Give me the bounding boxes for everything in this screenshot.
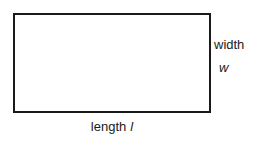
length-label-group: lengthl xyxy=(13,117,211,135)
width-label-group: width w xyxy=(214,36,272,76)
rectangle-shape xyxy=(13,13,211,113)
length-label-text: length xyxy=(91,119,126,134)
width-label-text: width xyxy=(214,36,272,53)
rectangle-diagram: width w lengthl xyxy=(0,0,273,150)
length-variable-text: l xyxy=(130,119,133,134)
width-variable-text: w xyxy=(219,59,272,76)
